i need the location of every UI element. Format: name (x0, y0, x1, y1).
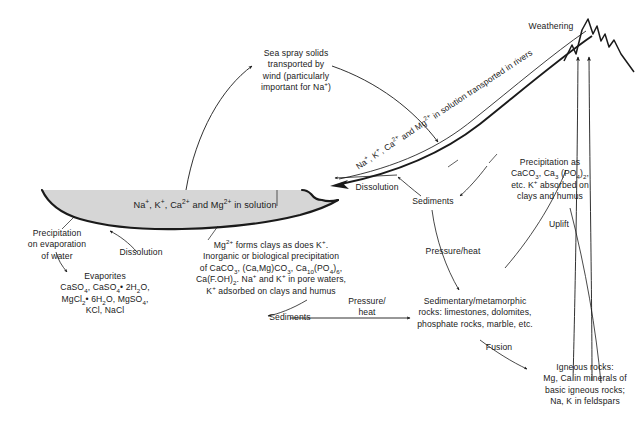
label-pressure-heat-left: Pressure/heat (340, 296, 394, 319)
label-clays-precipitation: Mg2+ forms clays as does K+.Inorganic or… (176, 240, 366, 297)
label-fusion: Fusion (477, 342, 521, 353)
label-sedimentary-rocks: Sedimentary/metamorphicrocks: limestones… (413, 296, 537, 330)
label-igneous-rocks: Igneous rocks:Mg, Ca in minerals ofbasic… (528, 362, 642, 408)
label-precipitation-as: Precipitation asCaCO3, Ca3 (PO4)2,etc. K… (490, 157, 610, 203)
geochemical-cycle-diagram: Weathering Sea spray solidstransported b… (0, 0, 644, 439)
label-dissolution-left: Dissolution (108, 247, 174, 258)
label-evaporites: EvaporitesCaSO4, CaSO4• 2H2O,MgCl2• 6H2O… (36, 271, 174, 317)
label-pressure-heat-upper: Pressure/heat (409, 246, 497, 257)
label-sea-spray: Sea spray solidstransported bywind (part… (240, 48, 352, 94)
label-precipitation-evaporation: Precipitationon evaporationof water (11, 228, 103, 262)
label-uplift: Uplift (541, 219, 577, 230)
label-sediments-right: Sediments (402, 196, 464, 207)
label-dissolution-right: Dissolution (344, 182, 410, 193)
label-weathering: Weathering (508, 21, 594, 32)
label-sediments-bottom: Sediments (259, 312, 321, 323)
label-ocean-solution: Na+, K+, Ca2+ and Mg2+ in solution (105, 200, 305, 211)
